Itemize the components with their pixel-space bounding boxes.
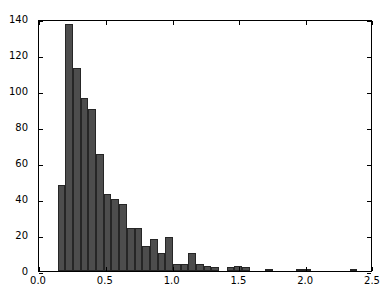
histogram-figure: 020406080100120140 0.00.51.01.52.02.5 (0, 0, 392, 298)
histogram-bar (211, 267, 219, 271)
x-axis-labels: 0.00.51.01.52.02.5 (0, 276, 392, 292)
histogram-bar (188, 253, 196, 271)
y-tick-label: 20 (15, 231, 28, 241)
histogram-bar (119, 204, 127, 271)
x-tick-mark-top (173, 21, 174, 25)
x-tick-label: 2.0 (285, 276, 325, 286)
histogram-bar (196, 264, 204, 271)
y-tick-mark (39, 201, 43, 202)
histogram-bar (165, 237, 173, 271)
x-tick-label: 1.5 (218, 276, 258, 286)
histogram-bar (350, 269, 358, 271)
x-tick-mark (372, 267, 373, 271)
x-tick-mark (239, 267, 240, 271)
x-tick-label: 0.5 (85, 276, 125, 286)
y-tick-mark-right (367, 129, 371, 130)
x-tick-mark-top (106, 21, 107, 25)
histogram-bar (173, 264, 181, 271)
y-tick-mark-right (367, 165, 371, 166)
x-tick-mark (306, 267, 307, 271)
y-tick-label: 40 (15, 195, 28, 205)
histogram-bar (150, 239, 158, 271)
y-tick-mark (39, 129, 43, 130)
x-tick-mark (106, 267, 107, 271)
y-tick-label: 80 (15, 123, 28, 133)
y-axis-labels: 020406080100120140 (0, 0, 34, 298)
x-tick-label: 1.0 (152, 276, 192, 286)
histogram-bar (135, 228, 143, 271)
plot-area (38, 20, 372, 272)
y-tick-label: 140 (9, 15, 28, 25)
y-tick-mark (39, 57, 43, 58)
histogram-bar (65, 24, 73, 271)
histogram-bars (39, 21, 371, 271)
histogram-bar (88, 109, 96, 271)
histogram-bar (181, 264, 189, 271)
y-tick-label: 100 (9, 87, 28, 97)
y-tick-mark-right (367, 21, 371, 22)
histogram-bar (204, 266, 212, 271)
histogram-bar (304, 269, 312, 271)
histogram-bar (81, 98, 89, 271)
x-tick-mark-top (306, 21, 307, 25)
y-tick-label: 120 (9, 51, 28, 61)
histogram-bar (127, 228, 135, 271)
histogram-bar (58, 185, 66, 271)
y-tick-mark-right (367, 237, 371, 238)
y-tick-mark-right (367, 57, 371, 58)
histogram-bar (111, 199, 119, 271)
histogram-bar (227, 267, 235, 271)
x-tick-mark-top (372, 21, 373, 25)
histogram-bar (234, 266, 242, 271)
y-tick-mark (39, 165, 43, 166)
y-tick-mark (39, 93, 43, 94)
histogram-bar (142, 246, 150, 271)
histogram-bar (73, 68, 81, 271)
histogram-bar (158, 253, 166, 271)
x-tick-label: 2.5 (352, 276, 392, 286)
y-tick-mark-right (367, 93, 371, 94)
histogram-bar (96, 154, 104, 271)
y-tick-mark (39, 237, 43, 238)
x-tick-mark-top (39, 21, 40, 25)
y-tick-mark-right (367, 273, 371, 274)
y-tick-mark (39, 273, 43, 274)
histogram-bar (265, 269, 273, 271)
histogram-bar (104, 194, 112, 271)
x-tick-mark-top (239, 21, 240, 25)
y-tick-mark-right (367, 201, 371, 202)
histogram-bar (242, 267, 250, 271)
histogram-bar (296, 269, 304, 271)
x-tick-label: 0.0 (18, 276, 58, 286)
x-tick-mark (173, 267, 174, 271)
x-tick-mark (39, 267, 40, 271)
y-tick-label: 60 (15, 159, 28, 169)
